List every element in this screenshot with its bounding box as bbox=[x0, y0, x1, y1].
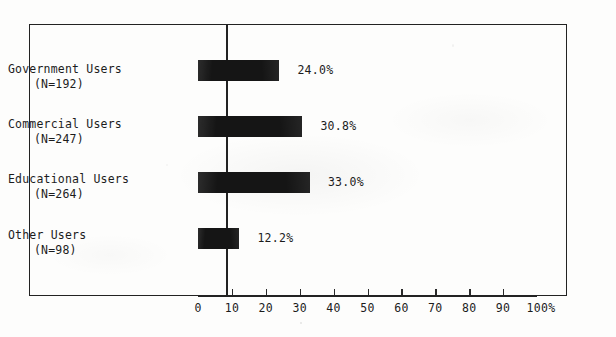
x-axis-tick bbox=[300, 289, 301, 295]
x-axis-tick bbox=[266, 289, 267, 295]
x-axis-tick-label: 30 bbox=[292, 301, 306, 315]
bar-other-users bbox=[198, 228, 239, 249]
x-axis-tick bbox=[232, 289, 233, 295]
x-axis-tick bbox=[469, 289, 470, 295]
scan-speck bbox=[166, 164, 168, 166]
category-label-3: Other Users (N=98) bbox=[8, 228, 194, 257]
x-axis-tick-label: 60 bbox=[394, 301, 408, 315]
x-axis-tick-label: 50 bbox=[360, 301, 374, 315]
x-axis: 0102030405060708090100% bbox=[198, 295, 537, 296]
category-name-0: Government Users bbox=[8, 62, 122, 76]
category-label-2: Educational Users (N=264) bbox=[8, 172, 194, 201]
category-name-2: Educational Users bbox=[8, 172, 129, 186]
bar-value-label-3: 12.2% bbox=[257, 231, 293, 246]
category-count-1: (N=247) bbox=[8, 132, 194, 147]
x-axis-tick-label: 100% bbox=[527, 301, 556, 315]
category-count-3: (N=98) bbox=[8, 243, 194, 258]
bar-value-label-1: 30.8% bbox=[320, 119, 356, 134]
chart-page: Government Users (N=192) Commercial User… bbox=[0, 0, 616, 337]
x-axis-tick bbox=[368, 289, 369, 295]
x-axis-tick-label: 80 bbox=[462, 301, 476, 315]
bar-value-label-0: 24.0% bbox=[297, 63, 333, 78]
x-axis-tick bbox=[503, 289, 504, 295]
bar-value-label-2: 33.0% bbox=[328, 175, 364, 190]
category-label-0: Government Users (N=192) bbox=[8, 62, 194, 91]
bar-commercial-users bbox=[198, 116, 302, 137]
x-axis-tick-label: 10 bbox=[225, 301, 239, 315]
category-label-1: Commercial Users (N=247) bbox=[8, 117, 194, 146]
x-axis-tick bbox=[401, 289, 402, 295]
x-axis-tick-label: 20 bbox=[259, 301, 273, 315]
scan-speck bbox=[300, 322, 302, 324]
x-axis-line bbox=[198, 295, 537, 297]
category-count-2: (N=264) bbox=[8, 187, 194, 202]
plot-area: 24.0% 30.8% 33.0% 12.2% bbox=[198, 0, 537, 272]
category-name-3: Other Users bbox=[8, 228, 86, 242]
x-axis-tick-label: 40 bbox=[326, 301, 340, 315]
bar-government-users bbox=[198, 60, 279, 81]
x-axis-tick-label: 0 bbox=[194, 301, 201, 315]
x-axis-tick bbox=[435, 289, 436, 295]
bar-educational-users bbox=[198, 172, 310, 193]
category-count-0: (N=192) bbox=[8, 77, 194, 92]
x-axis-tick-label: 90 bbox=[496, 301, 510, 315]
category-name-1: Commercial Users bbox=[8, 117, 122, 131]
x-axis-tick bbox=[334, 289, 335, 295]
scan-speck bbox=[452, 44, 454, 47]
x-axis-tick-label: 70 bbox=[428, 301, 442, 315]
